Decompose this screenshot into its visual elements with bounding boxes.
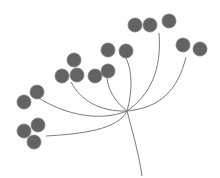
seed <box>30 85 44 99</box>
seed <box>27 135 41 149</box>
umbel-illustration <box>0 0 220 178</box>
seed <box>70 68 84 82</box>
stem-top-right-cluster <box>127 33 159 111</box>
stem-left-cluster <box>37 97 127 116</box>
seed <box>31 118 45 132</box>
stem-upper-middle-cluster <box>126 58 131 111</box>
cluster-bottom-left <box>17 118 45 149</box>
stem-left-upper-cluster <box>71 82 127 111</box>
main-stem <box>127 111 142 176</box>
seed <box>143 18 157 32</box>
cluster-middle <box>88 64 115 83</box>
seed-clusters <box>17 14 207 149</box>
cluster-left-upper <box>55 53 84 83</box>
seed <box>17 95 31 109</box>
stem-middle-cluster <box>107 78 127 111</box>
cluster-upper-middle <box>101 43 133 58</box>
seed <box>176 38 190 52</box>
seed <box>55 69 69 83</box>
seed <box>101 64 115 78</box>
seed <box>101 43 115 57</box>
seed <box>193 42 207 56</box>
stem-right-cluster <box>127 57 186 111</box>
cluster-right <box>176 38 207 56</box>
seed <box>67 53 81 67</box>
seed <box>162 14 176 28</box>
cluster-top-right <box>128 14 176 32</box>
seed <box>128 18 142 32</box>
seed <box>119 44 133 58</box>
seed <box>17 124 31 138</box>
seed <box>88 69 102 83</box>
cluster-left <box>17 85 44 109</box>
